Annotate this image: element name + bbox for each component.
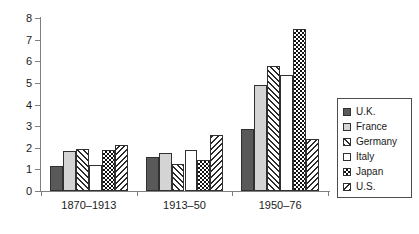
y-tick-label-1: 1 xyxy=(12,164,32,175)
bar-france-1 xyxy=(159,153,172,191)
y-tick-7 xyxy=(35,40,40,41)
y-tick-label-8: 8 xyxy=(12,13,32,24)
bar-italy-2 xyxy=(280,75,293,191)
legend-label: France xyxy=(356,122,387,132)
y-tick-8 xyxy=(35,18,40,19)
y-tick-label-6: 6 xyxy=(12,56,32,67)
y-tick-6 xyxy=(35,61,40,62)
x-group-label-1: 1913–50 xyxy=(137,200,233,211)
legend-swatch-icon-italy xyxy=(343,153,351,161)
legend-item-uk[interactable]: U.K. xyxy=(343,104,407,119)
y-tick-2 xyxy=(35,148,40,149)
legend-label: Italy xyxy=(356,152,374,162)
bar-uk-1 xyxy=(146,157,159,191)
plot-area xyxy=(41,18,328,191)
bar-germany-2 xyxy=(267,66,280,191)
x-axis-line xyxy=(40,191,330,192)
bar-italy-1 xyxy=(185,150,198,191)
y-tick-4 xyxy=(35,105,40,106)
y-tick-label-7: 7 xyxy=(12,35,32,46)
bar-france-2 xyxy=(254,85,267,191)
bar-chart: 012345678 1870–19131913–501950–76 U.K.Fr… xyxy=(0,0,419,234)
bar-japan-1 xyxy=(197,160,210,191)
legend-item-germany[interactable]: Germany xyxy=(343,134,407,149)
legend-item-italy[interactable]: Italy xyxy=(343,149,407,164)
y-tick-3 xyxy=(35,126,40,127)
bar-italy-0 xyxy=(89,165,102,191)
bar-uk-0 xyxy=(50,166,63,191)
legend-label: U.K. xyxy=(356,107,375,117)
legend-label: U.S. xyxy=(356,182,375,192)
y-tick-label-2: 2 xyxy=(12,143,32,154)
bar-japan-0 xyxy=(102,150,115,191)
x-tick-3 xyxy=(328,191,329,196)
y-tick-5 xyxy=(35,83,40,84)
bar-uk-2 xyxy=(241,129,254,191)
legend-item-france[interactable]: France xyxy=(343,119,407,134)
legend: U.K.FranceGermanyItalyJapanU.S. xyxy=(337,98,412,198)
bar-germany-0 xyxy=(76,149,89,191)
bar-us-2 xyxy=(306,139,319,191)
legend-label: Germany xyxy=(356,137,397,147)
bar-germany-1 xyxy=(172,164,185,191)
legend-swatch-icon-france xyxy=(343,123,351,131)
y-tick-label-0: 0 xyxy=(12,186,32,197)
legend-swatch-icon-us xyxy=(343,183,351,191)
y-tick-label-5: 5 xyxy=(12,78,32,89)
x-group-label-0: 1870–1913 xyxy=(41,200,137,211)
legend-item-japan[interactable]: Japan xyxy=(343,164,407,179)
bar-france-0 xyxy=(63,151,76,191)
x-tick-2 xyxy=(232,191,233,196)
y-tick-1 xyxy=(35,169,40,170)
legend-swatch-icon-japan xyxy=(343,168,351,176)
x-tick-1 xyxy=(137,191,138,196)
y-tick-label-3: 3 xyxy=(12,121,32,132)
legend-swatch-icon-germany xyxy=(343,138,351,146)
bar-us-1 xyxy=(210,135,223,191)
bar-japan-2 xyxy=(293,29,306,191)
legend-label: Japan xyxy=(356,167,383,177)
legend-swatch-icon-uk xyxy=(343,108,351,116)
y-tick-0 xyxy=(35,191,40,192)
x-group-label-2: 1950–76 xyxy=(232,200,328,211)
legend-item-us[interactable]: U.S. xyxy=(343,179,407,194)
y-tick-label-4: 4 xyxy=(12,100,32,111)
x-tick-0 xyxy=(41,191,42,196)
bar-us-0 xyxy=(115,145,128,191)
